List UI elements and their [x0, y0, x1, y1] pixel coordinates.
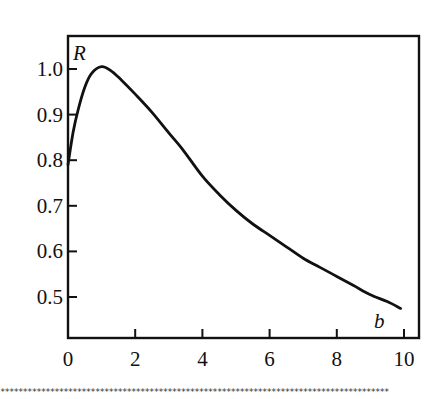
y-tick-label: 0.5: [37, 285, 63, 309]
bottom-decorative-rule: ****************************************…: [0, 386, 416, 398]
x-tick-label: 10: [394, 347, 415, 371]
x-axis-ticks: 0246810: [63, 329, 415, 371]
x-tick-label: 6: [264, 347, 275, 371]
x-tick-label: 4: [197, 347, 208, 371]
y-tick-label: 0.7: [37, 194, 63, 218]
x-axis-label: b: [374, 309, 385, 333]
y-axis-ticks: 0.50.60.70.80.91.0: [37, 57, 77, 309]
y-tick-label: 1.0: [37, 57, 63, 81]
y-tick-label: 0.9: [37, 103, 63, 127]
data-curve: [68, 67, 401, 309]
y-axis-label: R: [72, 41, 86, 65]
y-tick-label: 0.8: [37, 148, 63, 172]
x-tick-label: 8: [332, 347, 343, 371]
x-tick-label: 2: [130, 347, 141, 371]
x-tick-label: 0: [63, 347, 74, 371]
y-tick-label: 0.6: [37, 239, 63, 263]
line-chart: 0.50.60.70.80.91.0 0246810 R b: [0, 0, 442, 380]
